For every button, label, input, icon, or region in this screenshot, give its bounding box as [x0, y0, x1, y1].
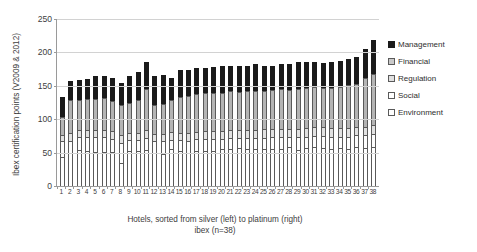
bar-column[interactable] — [218, 19, 226, 186]
stacked-bar[interactable] — [354, 57, 359, 186]
stacked-bar[interactable] — [136, 72, 141, 186]
bar-column[interactable] — [226, 19, 234, 186]
stacked-bar[interactable] — [77, 80, 82, 186]
stacked-bar[interactable] — [68, 81, 73, 186]
bar-column[interactable] — [184, 19, 192, 186]
bar-column[interactable] — [210, 19, 218, 186]
stacked-bar[interactable] — [127, 76, 132, 186]
stacked-bar[interactable] — [102, 76, 107, 186]
stacked-bar[interactable] — [371, 40, 376, 186]
legend-item-management[interactable]: Management — [388, 36, 477, 53]
legend-label: Financial — [398, 57, 430, 66]
bar-column[interactable] — [294, 19, 302, 186]
gridline — [57, 86, 379, 87]
legend-item-regulation[interactable]: Regulation — [388, 70, 477, 87]
bar-column[interactable] — [58, 19, 66, 186]
stacked-bar[interactable] — [85, 79, 90, 186]
bar-column[interactable] — [269, 19, 277, 186]
legend-item-environment[interactable]: Environment — [388, 104, 477, 121]
bar-column[interactable] — [100, 19, 108, 186]
stacked-bar[interactable] — [245, 66, 250, 186]
stacked-bar[interactable] — [329, 62, 334, 186]
bar-column[interactable] — [252, 19, 260, 186]
stacked-bar[interactable] — [119, 83, 124, 187]
stacked-bar[interactable] — [220, 66, 225, 186]
stacked-bar[interactable] — [338, 61, 343, 186]
x-axis-tick-label: 15 — [175, 188, 183, 195]
bar-segment-social — [363, 135, 368, 148]
stacked-bar[interactable] — [186, 70, 191, 186]
bar-column[interactable] — [92, 19, 100, 186]
bar-column[interactable] — [235, 19, 243, 186]
bar-column[interactable] — [319, 19, 327, 186]
bar-column[interactable] — [159, 19, 167, 186]
stacked-bar[interactable] — [363, 49, 368, 186]
stacked-bar[interactable] — [312, 62, 317, 186]
bar-segment-management — [60, 97, 65, 116]
bar-segment-regulation — [152, 134, 157, 141]
bar-column[interactable] — [142, 19, 150, 186]
stacked-bar[interactable] — [321, 63, 326, 186]
bar-segment-social — [144, 138, 149, 150]
bar-column[interactable] — [361, 19, 369, 186]
y-axis-tick — [54, 119, 57, 120]
stacked-bar[interactable] — [152, 76, 157, 186]
stacked-bar[interactable] — [279, 64, 284, 186]
legend-item-social[interactable]: Social — [388, 87, 477, 104]
stacked-bar[interactable] — [169, 78, 174, 186]
stacked-bar[interactable] — [346, 59, 351, 186]
bar-column[interactable] — [151, 19, 159, 186]
bar-segment-social — [186, 141, 191, 154]
legend-item-financial[interactable]: Financial — [388, 53, 477, 70]
bar-column[interactable] — [167, 19, 175, 186]
bar-column[interactable] — [243, 19, 251, 186]
stacked-bar[interactable] — [287, 64, 292, 186]
bar-column[interactable] — [285, 19, 293, 186]
stacked-bar[interactable] — [296, 62, 301, 186]
bar-segment-management — [253, 64, 258, 91]
stacked-bar[interactable] — [161, 75, 166, 186]
bar-column[interactable] — [193, 19, 201, 186]
bar-column[interactable] — [66, 19, 74, 186]
bar-column[interactable] — [201, 19, 209, 186]
bar-segment-management — [346, 59, 351, 85]
bar-column[interactable] — [277, 19, 285, 186]
stacked-bar[interactable] — [60, 97, 65, 186]
y-axis-tick-label: 200 — [38, 47, 52, 57]
bar-segment-regulation — [321, 127, 326, 136]
stacked-bar[interactable] — [110, 78, 115, 186]
bar-segment-environment — [262, 149, 267, 186]
stacked-bar[interactable] — [178, 70, 183, 186]
bar-column[interactable] — [125, 19, 133, 186]
bar-segment-social — [85, 137, 90, 151]
bar-column[interactable] — [370, 19, 378, 186]
stacked-bar[interactable] — [304, 62, 309, 186]
stacked-bar[interactable] — [253, 64, 258, 186]
x-axis-title-line1: Hotels, sorted from silver (left) to pla… — [40, 214, 390, 225]
bar-column[interactable] — [353, 19, 361, 186]
bar-column[interactable] — [83, 19, 91, 186]
stacked-bar[interactable] — [270, 66, 275, 186]
bar-column[interactable] — [344, 19, 352, 186]
stacked-bar[interactable] — [93, 76, 98, 186]
bar-column[interactable] — [260, 19, 268, 186]
bar-segment-environment — [169, 149, 174, 186]
bar-column[interactable] — [311, 19, 319, 186]
bar-column[interactable] — [336, 19, 344, 186]
bar-column[interactable] — [109, 19, 117, 186]
bar-column[interactable] — [117, 19, 125, 186]
bar-column[interactable] — [328, 19, 336, 186]
x-axis-tick-label: 21 — [225, 188, 233, 195]
bar-segment-social — [279, 137, 284, 148]
bar-segment-financial — [211, 93, 216, 132]
bar-segment-management — [237, 66, 242, 92]
stacked-bar[interactable] — [262, 66, 267, 186]
stacked-bar[interactable] — [144, 62, 149, 186]
stacked-bar[interactable] — [228, 66, 233, 186]
bar-column[interactable] — [176, 19, 184, 186]
bar-column[interactable] — [134, 19, 142, 186]
stacked-bar[interactable] — [237, 66, 242, 186]
x-axis-tick-label: 31 — [310, 188, 318, 195]
bar-column[interactable] — [302, 19, 310, 186]
bar-column[interactable] — [75, 19, 83, 186]
